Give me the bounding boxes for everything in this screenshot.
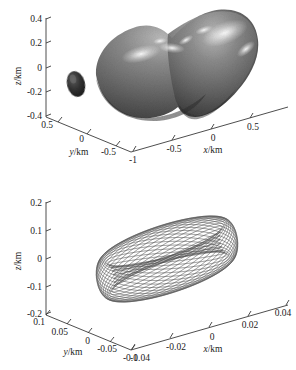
z-tick-label: 0.4 [30,14,42,24]
z-tick-label: -0.4 [27,111,42,121]
secondary-body [64,69,88,99]
x-tick-label: -0.5 [166,144,181,154]
orbit-revolution [105,218,229,301]
z-tick-label: 0.2 [30,38,42,48]
z-tick-label: -0.1 [27,282,42,292]
orbit-revolution [112,247,222,271]
z-axis-title-top: z/km [13,66,23,86]
x-tick-label: -0.04 [130,353,150,363]
orbit-revolution [99,216,236,301]
asteroid-shape-svg: 0.4 0.2 0 -0.2 -0.4 z/km 0.5 0 -0.5 [0,0,296,185]
x-tick-label: -1 [129,155,137,165]
x-tick-label: 0.04 [275,308,292,318]
orbit-revolution [114,232,220,285]
y-tick-label: -0.5 [101,147,116,157]
orbit-revolution [105,218,229,301]
orbit-revolution [102,216,233,302]
precessing-orbit-trace [96,216,238,302]
y-axis-line-top [46,117,131,152]
orbit-revolution [103,217,230,302]
y-tick-label: 0 [85,336,90,346]
z-axis-title-bottom: z/km [13,251,23,271]
orbit-revolution [103,217,230,302]
x-tick-label: -0.02 [166,342,186,352]
z-ticks-bottom [46,201,51,314]
orbit-revolution [99,216,236,301]
z-tick-label: -0.2 [27,87,42,97]
z-ticks-top [46,17,51,116]
z-tick-label: 0 [37,63,42,73]
y-tick-label: 0 [79,134,84,144]
orbit-revolution [107,219,227,299]
y-axis-title-top: y/km [69,147,90,157]
orbit-revolution [107,251,226,266]
z-tick-label: 0.1 [30,226,42,236]
orbit-revolution [102,241,232,276]
orbit-revolution [107,251,226,266]
orbit-revolution [102,241,232,276]
orbit-revolution [112,247,222,271]
primary-body [96,10,258,122]
y-axis-title-bottom: y/km [63,347,84,357]
orbit-revolution [106,249,229,270]
z-tick-label: 0.2 [30,198,42,208]
y-tick-label: 0.1 [33,317,45,327]
orbit-revolution [111,223,224,294]
y-tick-label: 0.05 [51,327,68,337]
orbit-revolution [102,216,233,302]
x-tick-label: 0.02 [242,320,259,330]
orbit-revolution [107,219,227,299]
x-tick-label: 0 [211,133,216,143]
orbit-revolution [106,249,229,270]
panel-asteroid-shape-model: 0.4 0.2 0 -0.2 -0.4 z/km 0.5 0 -0.5 [0,0,296,185]
x-tick-label: 0 [210,332,215,342]
figure-3d-asteroid-and-orbit: 0.4 0.2 0 -0.2 -0.4 z/km 0.5 0 -0.5 [0,0,296,370]
z-tick-label: 0 [37,254,42,264]
orbit-trajectory-svg: 0.2 0.1 0 -0.1 -0.2 z/km 0.1 0.05 [0,185,296,370]
x-axis-title-top: x/km [203,145,224,155]
x-tick-label: 0.5 [247,122,259,132]
panel-orbit-trajectory: 0.2 0.1 0 -0.1 -0.2 z/km 0.1 0.05 [0,185,296,370]
y-tick-label: -0.05 [97,344,117,354]
orbit-revolution [111,223,224,294]
y-tick-label: 0.5 [41,120,53,130]
y-ticks-top [58,117,120,146]
x-axis-title-bottom: x/km [203,344,224,354]
orbit-revolution [114,232,220,285]
